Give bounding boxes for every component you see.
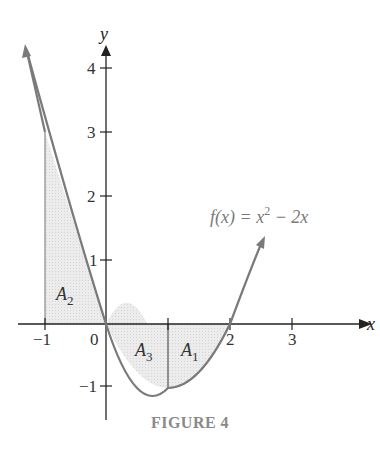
x-tick-label: −1 [33,330,51,349]
x-axis-label: x [366,314,375,334]
curve-right-arrow-icon [256,236,265,249]
x-tick-label: 2 [226,330,235,349]
x-tick-label: 0 [90,330,99,349]
function-curve-left [26,49,45,132]
y-tick-label: 1 [89,251,98,270]
region-a1-shade [168,324,230,388]
function-label: f(x) = x2 − 2x [210,204,308,228]
y-tick-label: 2 [87,187,96,206]
y-tick-label: −1 [79,377,97,396]
figure-caption: FIGURE 4 [0,414,380,432]
figure-plot: −1 0 2 3 4 3 2 1 −1 y x A2 A3 A1 f(x) = … [0,0,380,453]
y-tick-label: 3 [87,123,96,142]
curve-left-arrow-icon [22,44,31,58]
y-tick-label: 4 [87,59,96,78]
y-axis-arrow-icon [101,45,111,56]
x-tick-label: 3 [288,330,297,349]
y-axis-label: y [98,24,108,44]
